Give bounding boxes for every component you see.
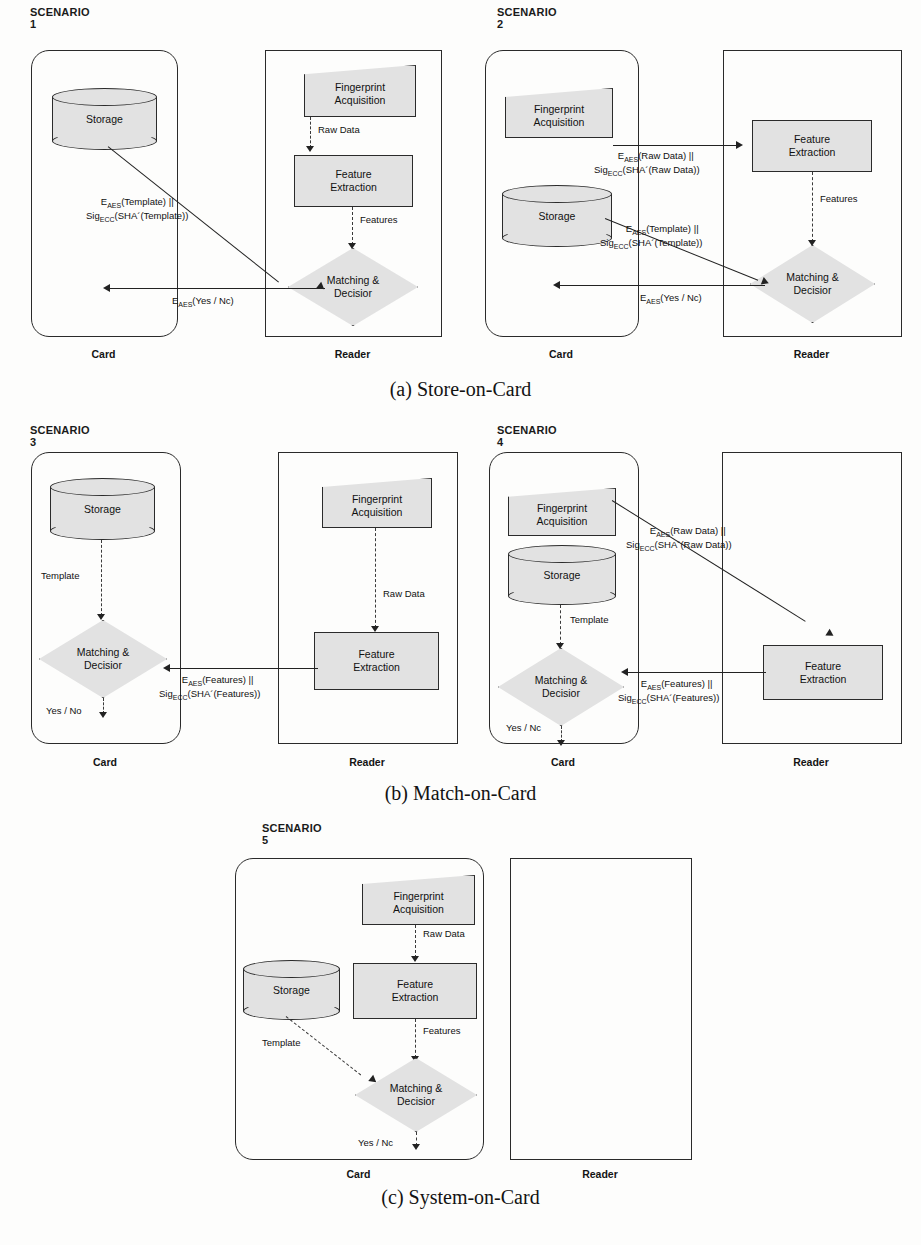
rawdata-payload-1: (Raw Data) || (670, 525, 726, 536)
md-line-2: Decisior (334, 287, 372, 299)
storage-label: Storage (243, 960, 340, 1020)
fa-line-1: Fingerprint (352, 493, 402, 505)
feature-extraction-label: Feature Extraction (789, 133, 836, 159)
matching-decision-label: Matching & Decisior (498, 648, 624, 726)
rawdata-payload-2: (SHA´(Raw Data)) (655, 539, 732, 550)
scenario-5-title: SCENARIO 5 (262, 822, 322, 846)
fa-line-2: Acquisition (393, 903, 444, 915)
scenario-3-rawdata-label: Raw Data (383, 588, 425, 600)
scenario-5-reader-container (510, 858, 692, 1160)
scenario-4-features-crypto-label: EAES(Features) || SigECC(SHA´(Features)) (634, 678, 719, 706)
scenario-3-card-caption: Card (31, 756, 179, 768)
scenario-2-title: SCENARIO 2 (497, 6, 557, 30)
scenario-4-card-caption: Card (489, 756, 637, 768)
md-line-1: Matching & (535, 674, 588, 686)
aes-sub: AES (178, 301, 192, 308)
aes-sub: AES (656, 531, 670, 538)
ecc-sub: ECC (632, 698, 647, 705)
fe-line-2: Extraction (353, 661, 400, 673)
md-line-1: Matching & (786, 271, 839, 283)
fa-line-1: Fingerprint (537, 502, 587, 514)
scenario-2-storage: Storage (502, 185, 612, 247)
scenario-3-fingerprint-acquisition: Fingerprint Acquisition (322, 478, 432, 528)
scenario-3-result-arrowhead (99, 712, 107, 718)
fe-line-2: Extraction (392, 991, 439, 1003)
scenario-3-rawdata-line (375, 528, 376, 628)
scenario-3-matching-decision: Matching & Decisior (39, 620, 167, 698)
fingerprint-acquisition-label: Fingerprint Acquisition (335, 76, 386, 107)
scenario-3-features-crypto-label: EAES(Features) || SigECC(SHA´(Features)) (175, 674, 260, 702)
figure-caption-c: (c) System-on-Card (0, 1186, 921, 1209)
scenario-5-rawdata-line (415, 925, 416, 958)
scenario-4-title: SCENARIO 4 (497, 424, 557, 448)
fa-line-2: Acquisition (534, 116, 585, 128)
aes-sub: AES (624, 156, 638, 163)
matching-decision-label: Matching & Decisior (355, 1058, 477, 1132)
sig-prefix: Sig (594, 164, 608, 175)
scenario-1-rawdata-label: Raw Data (318, 124, 360, 136)
feature-extraction-label: Feature Extraction (392, 978, 439, 1004)
scenario-4-matching-decision: Matching & Decisior (498, 648, 624, 726)
storage-label: Storage (502, 185, 612, 247)
ecc-sub: ECC (608, 170, 623, 177)
scenario-5-storage: Storage (243, 960, 340, 1020)
md-line-1: Matching & (77, 646, 130, 658)
fe-line-1: Feature (335, 168, 371, 180)
scenario-1-title: SCENARIO 1 (30, 6, 90, 30)
scenario-5-rawdata-arrowhead (411, 956, 419, 962)
scenario-1-reader-caption: Reader (265, 348, 440, 360)
scenario-5-template-label: Template (262, 1037, 301, 1049)
template-payload-1: (Template) || (646, 223, 698, 234)
scenario-3-storage: Storage (50, 478, 155, 540)
scenario-2-reader-caption: Reader (723, 348, 900, 360)
fe-line-2: Extraction (789, 146, 836, 158)
figure-caption-a: (a) Store-on-Card (0, 378, 921, 401)
fe-line-2: Extraction (330, 181, 377, 193)
scenario-1-feature-extraction: Feature Extraction (294, 155, 413, 207)
ecc-sub: ECC (100, 216, 115, 223)
sig-prefix: Sig (86, 210, 100, 221)
features-payload-1: (Features) || (661, 678, 712, 689)
scenario-5-features-line (415, 1019, 416, 1058)
scenario-2-rawdata-line (613, 145, 740, 146)
scenario-4-features-line (628, 672, 766, 673)
storage-label: Storage (52, 88, 157, 150)
md-line-2: Decisior (542, 687, 580, 699)
scenario-1-features-line (352, 207, 353, 245)
scenario-5-result-arrowhead (412, 1144, 420, 1150)
figure-caption-b: (b) Match-on-Card (0, 782, 921, 805)
aes-sub: AES (646, 298, 660, 305)
md-line-1: Matching & (327, 274, 380, 286)
scenario-4-result-arrowhead (557, 740, 565, 746)
aes-sub: AES (632, 229, 646, 236)
rawdata-payload-1: (Raw Data) || (638, 150, 694, 161)
scenario-3-template-label: Template (41, 570, 80, 582)
fe-line-1: Feature (805, 660, 841, 672)
fa-line-2: Acquisition (335, 94, 386, 106)
fingerprint-acquisition-label: Fingerprint Acquisition (352, 488, 403, 519)
yesno-payload: (Yes / Nc) (660, 292, 701, 303)
ecc-sub: ECC (614, 243, 629, 250)
scenario-1-card-caption: Card (31, 348, 176, 360)
md-line-1: Matching & (390, 1082, 443, 1094)
sig-prefix: Sig (626, 539, 640, 550)
scenario-5-rawdata-label: Raw Data (423, 928, 465, 940)
feature-extraction-label: Feature Extraction (800, 660, 847, 686)
md-line-2: Decisior (397, 1095, 435, 1107)
aes-sub: AES (188, 680, 202, 687)
scenario-4-reader-container (722, 452, 902, 744)
yesno-payload: (Yes / Nc) (192, 295, 233, 306)
matching-decision-label: Matching & Decisior (750, 245, 875, 323)
scenario-3-reader-caption: Reader (278, 756, 456, 768)
scenario-5-features-label: Features (423, 1025, 461, 1037)
scenario-3-features-line (170, 668, 318, 669)
fe-line-1: Feature (397, 978, 433, 990)
scenario-2-feature-extraction: Feature Extraction (752, 120, 872, 172)
scenario-2-result-arrowhead (553, 281, 560, 289)
scenario-1-fingerprint-acquisition: Fingerprint Acquisition (304, 65, 416, 117)
template-payload-2: (SHA´(Template)) (629, 237, 703, 248)
fingerprint-acquisition-label: Fingerprint Acquisition (537, 497, 588, 528)
matching-decision-label: Matching & Decisior (288, 248, 418, 326)
scenario-2-rawdata-crypto-label: EAES(Raw Data) || SigECC(SHA´(Raw Data)) (612, 150, 700, 178)
fa-line-2: Acquisition (537, 515, 588, 527)
